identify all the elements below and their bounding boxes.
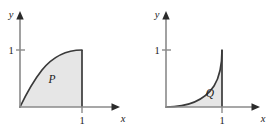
x-axis-label-right: x	[260, 113, 266, 124]
x-tick-label-right: 1	[219, 115, 224, 126]
region-label-q: Q	[206, 87, 215, 99]
y-axis-label-left: y	[8, 9, 14, 20]
x-axis-arrow-icon	[252, 103, 261, 110]
x-axis-arrow-icon	[112, 103, 121, 110]
y-axis-label-right: y	[154, 9, 160, 20]
panel-region-p: y x 1 1 P	[0, 0, 137, 131]
x-axis-label-left: x	[120, 113, 126, 124]
y-axis-arrow-icon	[162, 11, 169, 20]
panel-region-q: y x 1 1 Q	[138, 0, 275, 131]
figure-root: y x 1 1 P y x 1	[0, 0, 275, 131]
y-tick-label-right: 1	[154, 45, 159, 56]
x-tick-label-left: 1	[79, 115, 84, 126]
y-axis-arrow-icon	[16, 11, 23, 20]
region-label-p: P	[47, 73, 55, 85]
y-tick-label-left: 1	[8, 45, 13, 56]
